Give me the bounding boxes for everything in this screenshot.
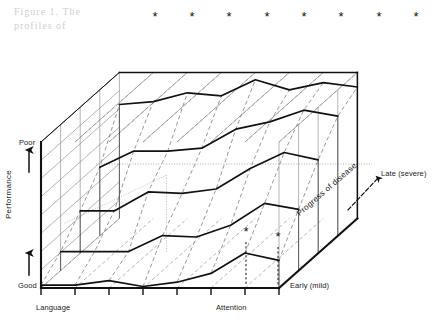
svg-text:*: * xyxy=(338,9,343,24)
y-axis-title: Performance xyxy=(4,170,13,219)
svg-text:*: * xyxy=(275,229,280,244)
axis-frame xyxy=(29,72,378,288)
z-axis-far-label: Late (severe) xyxy=(381,169,427,178)
grid-lines xyxy=(41,72,357,288)
y-axis-top-label: Poor xyxy=(19,138,35,147)
svg-text:*: * xyxy=(152,9,157,24)
figure-canvas: Figure 1. The profiles of ********** Poo… xyxy=(0,0,439,322)
svg-text:*: * xyxy=(264,9,269,24)
marker-droplines xyxy=(246,242,278,286)
svg-text:*: * xyxy=(301,9,306,24)
svg-text:*: * xyxy=(189,9,194,24)
profile-lines xyxy=(41,80,357,287)
axis-ticks xyxy=(41,289,279,295)
svg-text:*: * xyxy=(376,9,381,24)
surface-plot: ********** xyxy=(0,0,439,322)
x-axis-right-label: Attention xyxy=(216,303,247,312)
svg-text:*: * xyxy=(413,9,418,24)
svg-text:*: * xyxy=(243,224,248,239)
y-axis-bottom-label: Good xyxy=(18,281,37,290)
significance-markers: ********** xyxy=(152,9,418,244)
x-axis-left-label: Language xyxy=(36,303,70,312)
z-axis-near-label: Early (mild) xyxy=(290,281,329,290)
svg-text:*: * xyxy=(226,9,231,24)
vertical-riser-lines xyxy=(41,87,357,288)
